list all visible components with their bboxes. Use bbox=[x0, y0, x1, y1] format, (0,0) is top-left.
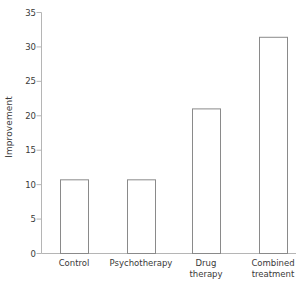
x-axis-category-labels: ControlPsychotherapyDrug therapyCombined… bbox=[0, 256, 304, 286]
bar bbox=[61, 180, 89, 254]
bar bbox=[128, 180, 156, 254]
plot-area bbox=[0, 0, 304, 286]
bar bbox=[193, 109, 221, 254]
bar-chart: Improvement 05101520253035 ControlPsycho… bbox=[0, 0, 304, 286]
x-axis-category-label: Combined treatment bbox=[228, 258, 304, 280]
bar bbox=[260, 37, 288, 253]
